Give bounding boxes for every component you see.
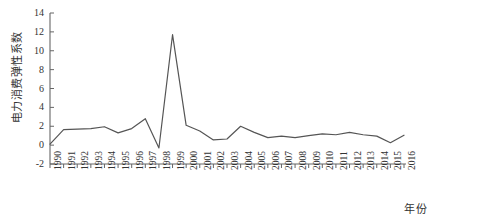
x-tick-label: 2003	[231, 151, 240, 170]
axes	[50, 13, 406, 164]
y-tick-label: 0	[22, 140, 44, 150]
axis-ticks	[50, 13, 404, 168]
x-tick-label: 1999	[177, 151, 186, 170]
x-tick-label: 2008	[299, 151, 308, 170]
x-tick-label: 2013	[367, 151, 376, 170]
x-tick-label: 2016	[408, 151, 417, 170]
y-tick-label: 14	[22, 8, 44, 18]
x-tick-label: 1996	[136, 151, 145, 170]
x-tick-label: 2000	[190, 151, 199, 170]
y-tick-label: 2	[22, 121, 44, 131]
x-tick-label: 2011	[340, 151, 349, 170]
y-tick-label: 6	[22, 84, 44, 94]
x-tick-label: 1990	[54, 151, 63, 170]
x-tick-label: 2010	[326, 151, 335, 170]
x-tick-label: 1991	[68, 151, 77, 170]
series-line	[50, 35, 404, 148]
x-tick-label: 2001	[204, 151, 213, 170]
x-tick-label: 2007	[285, 151, 294, 170]
x-tick-label: 1997	[149, 151, 158, 170]
x-tick-label: 2015	[394, 151, 403, 170]
x-tick-label: 2009	[313, 151, 322, 170]
chart-figure: 电力消费弹性系数 年份 -202468101214 19901991199219…	[0, 0, 479, 224]
x-tick-label: 2006	[272, 151, 281, 170]
x-tick-label: 1993	[95, 151, 104, 170]
y-tick-label: 8	[22, 65, 44, 75]
y-tick-label: 12	[22, 27, 44, 37]
y-tick-label: -2	[22, 159, 44, 169]
x-tick-label: 1992	[81, 151, 90, 170]
line-chart-plot	[0, 0, 479, 224]
x-tick-label: 2005	[258, 151, 267, 170]
x-tick-label: 2012	[354, 151, 363, 170]
x-tick-label: 2014	[381, 151, 390, 170]
x-tick-label: 1994	[108, 151, 117, 170]
y-tick-label: 10	[22, 46, 44, 56]
x-tick-label: 2002	[217, 151, 226, 170]
x-tick-label: 1998	[163, 151, 172, 170]
x-tick-label: 2004	[245, 151, 254, 170]
y-tick-label: 4	[22, 102, 44, 112]
x-tick-label: 1995	[122, 151, 131, 170]
data-series-line	[50, 35, 404, 148]
